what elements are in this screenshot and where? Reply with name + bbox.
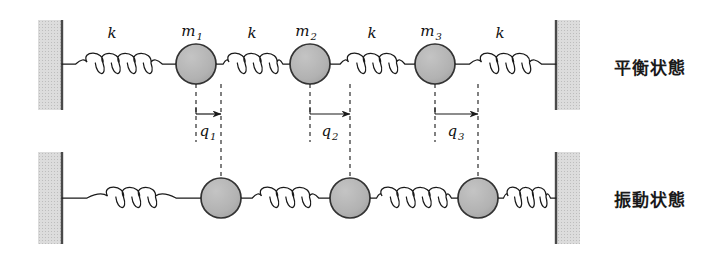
displacement-label-subscript: 2	[331, 131, 338, 142]
state-label-vibration: 振動状態	[614, 186, 686, 211]
mass-vibration-3	[458, 178, 498, 218]
mass-vibration-1	[201, 178, 241, 218]
displacement-3: q3	[435, 84, 478, 178]
spring-coil	[370, 187, 458, 207]
mass-label-subscript: 2	[309, 31, 316, 42]
mass-equilibrium-1	[176, 44, 216, 84]
wall-right-equilibrium	[556, 20, 580, 110]
wall-left-equilibrium	[38, 20, 62, 110]
wall-hatch	[38, 152, 62, 244]
spring-constant-label: k	[367, 24, 376, 42]
spring-equilibrium-3	[455, 53, 556, 73]
wall-left-vibration	[38, 152, 62, 244]
displacement-label-subscript: 1	[210, 131, 216, 142]
state-label-equilibrium: 平衡状態	[614, 54, 686, 79]
spring-vibration-1	[241, 187, 330, 207]
spring-vibration-3	[498, 187, 556, 207]
displacement-label: q2	[322, 122, 339, 142]
spring-coil	[455, 53, 556, 73]
spring-coil	[62, 53, 176, 73]
spring-constant-label: k	[495, 24, 504, 42]
wall-right-vibration	[556, 152, 580, 244]
spring-equilibrium-1	[216, 53, 290, 73]
spring-coil	[241, 187, 330, 207]
displacement-label: q3	[448, 122, 465, 142]
spring-coil	[498, 187, 556, 207]
mass-label-subscript: 1	[196, 31, 202, 42]
mass-label: m1	[181, 22, 203, 42]
spring-coil	[62, 187, 201, 207]
mass-label: m2	[295, 22, 317, 42]
mass-label-subscript: 3	[435, 31, 441, 42]
mass-vibration-2	[330, 178, 370, 218]
spring-vibration-2	[370, 187, 458, 207]
spring-equilibrium-0	[62, 53, 176, 73]
displacement-label: q1	[200, 122, 217, 142]
mass-label: m3	[420, 22, 442, 42]
displacement-label-subscript: 3	[458, 131, 464, 142]
diagram-body: kkkkm1m2m3q1q2q3	[38, 20, 580, 244]
mass-circle	[290, 44, 330, 84]
wall-hatch	[38, 20, 62, 110]
diagram-row-equilibrium: kkkkm1m2m3	[38, 20, 580, 110]
spring-equilibrium-2	[330, 53, 415, 73]
displacement-2: q2	[310, 84, 350, 178]
wall-hatch	[556, 152, 580, 244]
diagram-row-vibration	[38, 152, 580, 244]
displacement-1: q1	[196, 84, 221, 178]
spring-mass-diagram: kkkkm1m2m3q1q2q3 平衡状態 振動状態	[0, 0, 704, 253]
mass-circle	[458, 178, 498, 218]
spring-constant-label: k	[107, 24, 116, 42]
mass-circle	[201, 178, 241, 218]
spring-coil	[216, 53, 290, 73]
mass-circle	[415, 44, 455, 84]
mass-circle	[176, 44, 216, 84]
spring-coil	[330, 53, 415, 73]
mass-circle	[330, 178, 370, 218]
mass-equilibrium-3	[415, 44, 455, 84]
diagram-canvas: kkkkm1m2m3q1q2q3	[0, 0, 704, 253]
mass-equilibrium-2	[290, 44, 330, 84]
spring-vibration-0	[62, 187, 201, 207]
wall-hatch	[556, 20, 580, 110]
spring-constant-label: k	[247, 24, 256, 42]
